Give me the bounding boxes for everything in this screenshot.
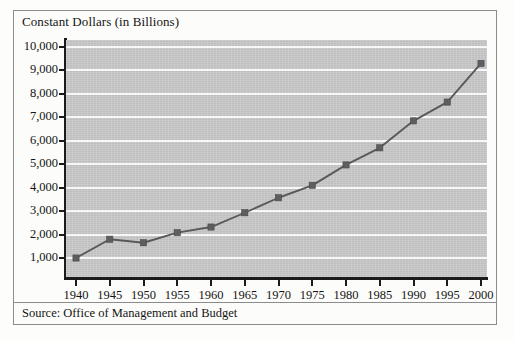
x-axis-tick bbox=[210, 279, 212, 286]
x-axis-tick bbox=[176, 279, 178, 286]
y-axis-tick bbox=[59, 116, 66, 118]
series-markers bbox=[73, 60, 484, 261]
x-axis-tick bbox=[379, 279, 381, 286]
y-axis-tick bbox=[59, 69, 66, 71]
source-note: Source: Office of Management and Budget bbox=[22, 306, 237, 321]
data-point-marker bbox=[73, 255, 79, 261]
data-point-marker bbox=[478, 60, 484, 66]
data-point-marker bbox=[275, 195, 281, 201]
x-axis-tick bbox=[345, 279, 347, 286]
y-axis-tick bbox=[59, 234, 66, 236]
y-axis-tick bbox=[59, 46, 66, 48]
x-axis-tick bbox=[480, 279, 482, 286]
y-axis-tick-label: 9,000 bbox=[2, 62, 58, 77]
y-axis-tick-label: 3,000 bbox=[2, 203, 58, 218]
x-axis-tick-label: 2000 bbox=[461, 288, 501, 303]
x-axis-tick bbox=[75, 279, 77, 286]
chart-page: Constant Dollars (in Billions) 1,0002,00… bbox=[0, 0, 515, 341]
x-axis-tick bbox=[446, 279, 448, 286]
y-axis-tick-label: 4,000 bbox=[2, 180, 58, 195]
x-axis-tick bbox=[278, 279, 280, 286]
data-point-marker bbox=[140, 240, 146, 246]
data-point-marker bbox=[242, 210, 248, 216]
plot-area bbox=[66, 40, 487, 277]
source-divider bbox=[13, 302, 497, 303]
x-axis-tick bbox=[143, 279, 145, 286]
y-axis-tick bbox=[59, 210, 66, 212]
x-axis-tick bbox=[413, 279, 415, 286]
y-axis-tick bbox=[59, 257, 66, 259]
y-axis-tick bbox=[59, 93, 66, 95]
y-axis-labels: 1,0002,0003,0004,0005,0006,0007,0008,000… bbox=[0, 0, 58, 341]
data-point-marker bbox=[208, 224, 214, 230]
y-axis-tick bbox=[59, 140, 66, 142]
x-axis-tick bbox=[109, 279, 111, 286]
data-point-marker bbox=[309, 182, 315, 188]
y-axis-tick-label: 2,000 bbox=[2, 227, 58, 242]
y-axis-tick bbox=[59, 163, 66, 165]
y-axis-tick-label: 5,000 bbox=[2, 156, 58, 171]
data-point-marker bbox=[410, 118, 416, 124]
data-point-marker bbox=[174, 230, 180, 236]
x-axis-line bbox=[64, 277, 488, 280]
data-point-marker bbox=[377, 145, 383, 151]
y-axis-tick-label: 1,000 bbox=[2, 250, 58, 265]
y-axis-tick-label: 6,000 bbox=[2, 133, 58, 148]
x-axis-tick bbox=[244, 279, 246, 286]
data-point-marker bbox=[343, 162, 349, 168]
data-point-marker bbox=[444, 99, 450, 105]
y-axis-tick-label: 7,000 bbox=[2, 109, 58, 124]
y-axis-tick bbox=[59, 187, 66, 189]
data-point-marker bbox=[107, 236, 113, 242]
series-line bbox=[76, 63, 481, 258]
y-axis-tick-label: 8,000 bbox=[2, 86, 58, 101]
x-axis-tick bbox=[311, 279, 313, 286]
y-axis-tick-label: 10,000 bbox=[2, 39, 58, 54]
data-series bbox=[66, 40, 487, 277]
